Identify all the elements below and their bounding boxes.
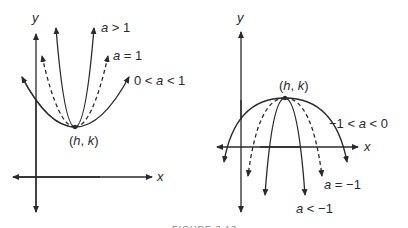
left-label-0-lt-a-lt-1: 0 < a < 1 [134,73,185,88]
left-curve-a1 [75,56,108,127]
right-curve-a-neg1-left [248,98,285,176]
left-curve-narrow [75,28,94,127]
left-vertex-label: (h, k) [69,133,99,148]
left-label-a-eq-1: a = 1 [113,48,142,63]
right-vertex-point [283,96,287,100]
left-label-a-gt-1: a > 1 [101,20,130,35]
left-vertex-point [73,125,77,129]
right-curve-a-neg1 [285,98,322,176]
right-vertex-label: (h, k) [279,78,309,93]
right-x-label: x [363,139,371,154]
left-curve-wide-left [22,77,75,127]
left-curve-narrow-left [56,28,75,127]
parabola-transformations-diagram: y x (h, k) a > 1 a = 1 0 < a < 1 y x [0,0,408,228]
left-curve-a1-left [42,56,75,127]
right-curve-wide-left [224,98,285,162]
left-y-label: y [31,10,40,25]
right-panel: y x (h, k) −1 < a < 0 a = −1 a < −1 [217,10,388,216]
right-y-label: y [236,10,245,25]
right-label-a-lt-neg1: a < −1 [296,201,333,216]
figure-caption: FIGURE 3.13 [172,224,237,228]
right-label-a-eq-neg1: a = −1 [324,177,361,192]
right-label-neg1-lt-a-lt-0: −1 < a < 0 [329,116,388,131]
left-x-label: x [156,169,164,184]
left-panel: y x (h, k) a > 1 a = 1 0 < a < 1 [13,10,185,212]
